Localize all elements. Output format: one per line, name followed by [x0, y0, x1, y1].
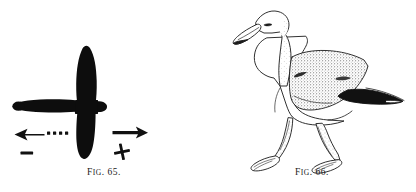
caption-66-number: . 66.	[310, 167, 329, 177]
silhouette-head-tip	[12, 102, 24, 111]
gull-drawing	[208, 0, 416, 192]
gull-eye	[265, 24, 273, 26]
right-arrow-icon	[113, 127, 149, 139]
figure-65	[0, 0, 208, 192]
caption-65-ig: IG	[93, 168, 102, 177]
gull-breast-line	[275, 88, 280, 112]
plus-sign-icon	[112, 142, 131, 161]
caption-66-ig: IG	[301, 168, 310, 177]
left-arrow-icon	[15, 129, 45, 141]
minus-sign-icon	[21, 152, 34, 155]
silhouette-body-core	[74, 100, 98, 114]
left-arrow-dots	[47, 132, 68, 135]
silhouette-lower-wing	[76, 112, 95, 159]
caption-65-number: . 65.	[102, 167, 121, 177]
silhouette-upper-wing	[76, 46, 97, 104]
figure-66	[208, 0, 416, 192]
silhouette-tail	[98, 101, 107, 112]
figure-plate: FIG. 65. FIG. 66.	[0, 0, 416, 192]
bird-silhouette-drawing	[0, 0, 208, 192]
figure-66-caption: FIG. 66.	[208, 167, 416, 177]
right-arrow-group	[113, 127, 149, 139]
gull-flank	[328, 111, 352, 120]
left-arrow-group	[15, 129, 69, 141]
gull-left-leg	[271, 118, 293, 162]
figure-65-caption: FIG. 65.	[0, 167, 208, 177]
gull-right-leg	[316, 124, 340, 161]
